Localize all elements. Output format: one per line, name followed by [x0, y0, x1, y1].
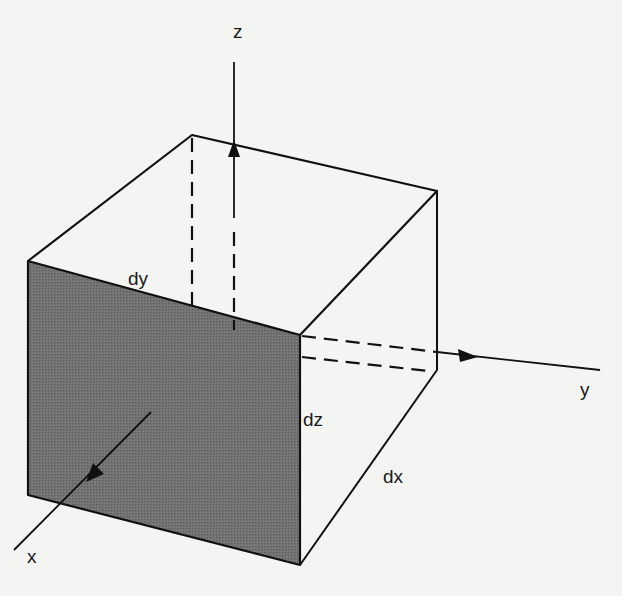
dz-label: dz	[303, 410, 323, 429]
x-axis-label: x	[27, 547, 37, 566]
cube-right-edges	[300, 191, 437, 565]
volume-element-diagram: z y x dy dz dx	[0, 0, 622, 596]
dy-label: dy	[128, 269, 148, 288]
hidden-edge-horizontal	[302, 357, 428, 371]
cube-drawing	[0, 0, 622, 596]
z-axis-label: z	[233, 22, 243, 41]
y-axis-hidden	[302, 336, 437, 352]
dx-label: dx	[383, 467, 403, 486]
y-axis-label: y	[580, 380, 590, 399]
shaded-front-face	[28, 261, 300, 565]
